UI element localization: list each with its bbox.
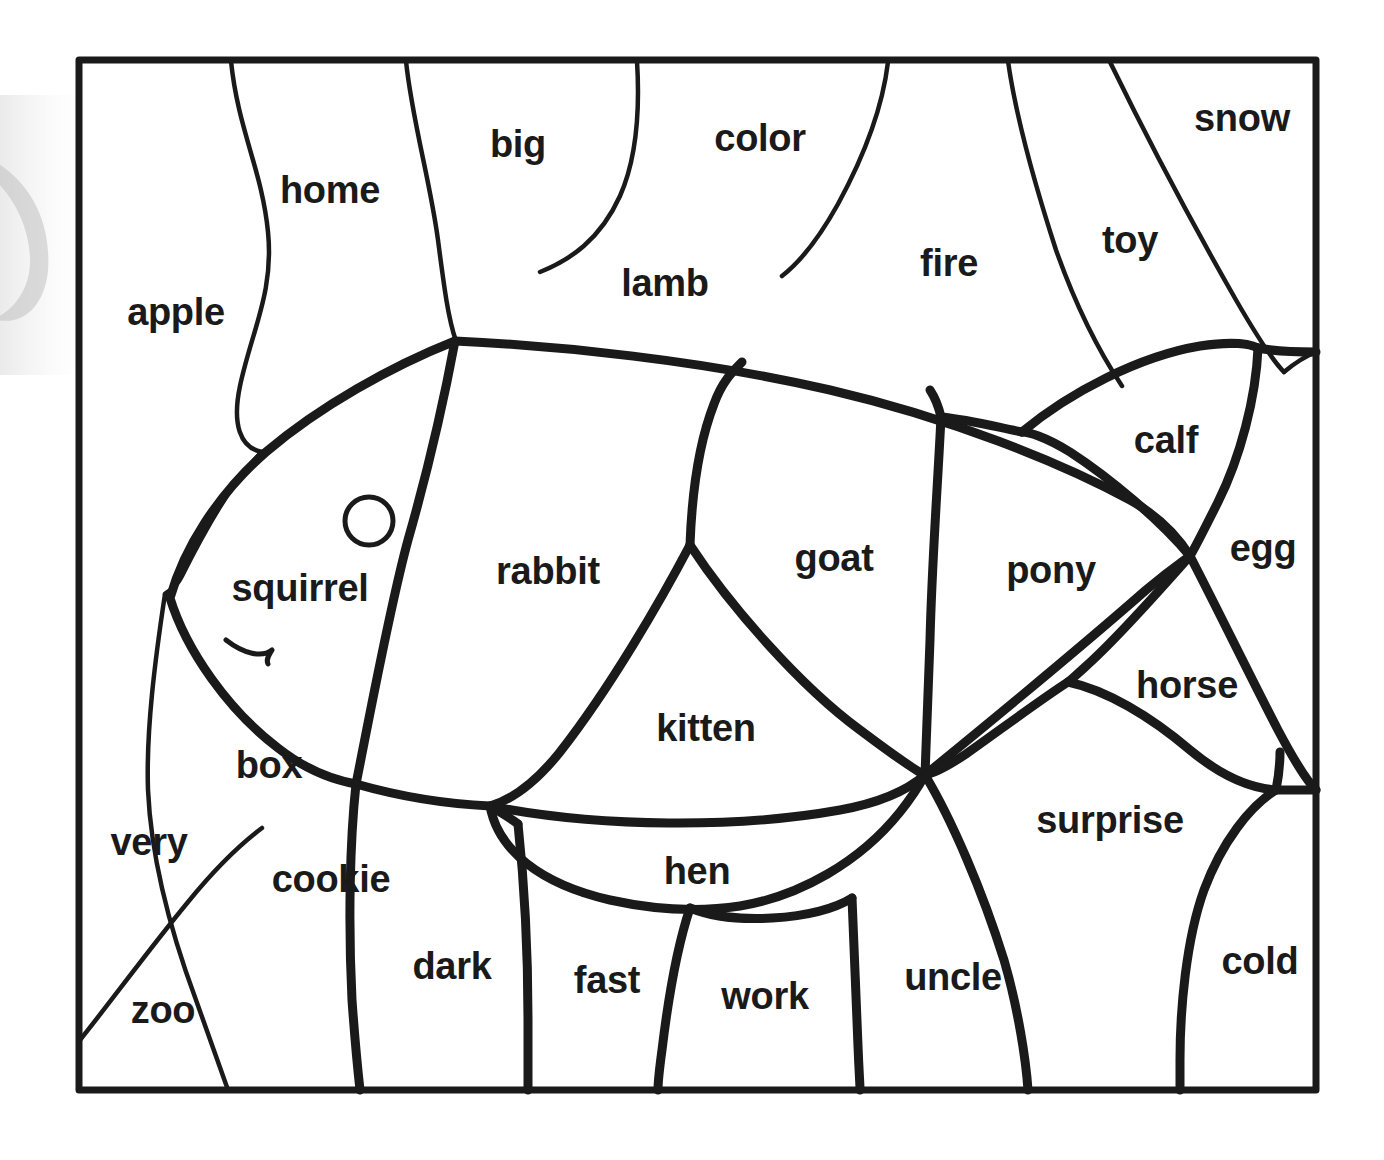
fish-belly-upper xyxy=(356,775,925,823)
fish-coloring-lineart xyxy=(0,0,1384,1160)
divider-fast-work xyxy=(658,908,690,1090)
region-word-egg: egg xyxy=(1230,527,1297,570)
fish-head-outline xyxy=(170,341,455,784)
region-word-very: very xyxy=(111,821,188,864)
region-word-hen: hen xyxy=(664,850,731,893)
region-word-toy: toy xyxy=(1102,219,1158,262)
region-word-calf: calf xyxy=(1134,419,1198,462)
divider-cookie-dark xyxy=(350,784,360,1090)
region-word-cookie: cookie xyxy=(272,858,391,901)
region-word-rabbit: rabbit xyxy=(496,550,600,593)
region-word-home: home xyxy=(280,169,380,212)
egg-top-edge xyxy=(1258,348,1316,352)
fish-gill-line xyxy=(356,341,455,784)
region-word-uncle: uncle xyxy=(904,956,1002,999)
tail-shoulder-line xyxy=(930,390,941,417)
region-word-dark: dark xyxy=(412,945,491,988)
fish-body-divider-right xyxy=(925,417,941,775)
region-word-pony: pony xyxy=(1006,549,1096,592)
region-word-squirrel: squirrel xyxy=(232,567,369,610)
region-word-zoo: zoo xyxy=(131,989,196,1032)
region-word-kitten: kitten xyxy=(656,707,756,750)
region-word-apple: apple xyxy=(127,291,225,334)
region-word-work: work xyxy=(721,975,809,1018)
pony-lower-edge xyxy=(925,682,1068,775)
region-word-box: box xyxy=(236,744,303,787)
region-word-snow: snow xyxy=(1194,97,1290,140)
region-word-cold: cold xyxy=(1222,940,1299,983)
region-word-color: color xyxy=(714,117,805,160)
region-word-fire: fire xyxy=(920,242,978,285)
divider-uncle-surprise xyxy=(925,775,1028,1090)
region-word-big: big xyxy=(490,123,546,166)
fish-eye-icon xyxy=(345,497,393,545)
fish-mouth-line xyxy=(226,640,272,664)
region-word-surprise: surprise xyxy=(1036,799,1184,842)
worksheet-page: apple home big color snow lamb fire toy … xyxy=(0,0,1384,1160)
fish-scale-line-top xyxy=(690,362,742,545)
region-word-goat: goat xyxy=(794,537,873,580)
region-word-fast: fast xyxy=(574,959,640,1002)
region-word-lamb: lamb xyxy=(621,262,709,305)
fish-back-outline xyxy=(455,341,1190,556)
divider-work-uncle-riser xyxy=(852,898,860,1090)
right-edge-notch-riser xyxy=(1276,752,1280,790)
egg-left-edge xyxy=(1190,348,1258,556)
region-word-horse: horse xyxy=(1136,664,1238,707)
